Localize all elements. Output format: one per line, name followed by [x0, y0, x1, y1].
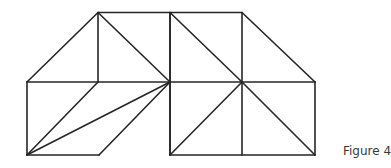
edge-DA [27, 13, 98, 83]
edge-AF [98, 13, 170, 83]
edge-FI [27, 82, 170, 155]
edge-BG [170, 13, 242, 83]
edge-EI [27, 82, 98, 155]
figure-caption: Figure 4 [343, 144, 391, 158]
edge-GK [170, 82, 242, 155]
edge-GM [242, 82, 315, 155]
edge-CH [242, 13, 315, 83]
edge-JF [99, 82, 170, 155]
